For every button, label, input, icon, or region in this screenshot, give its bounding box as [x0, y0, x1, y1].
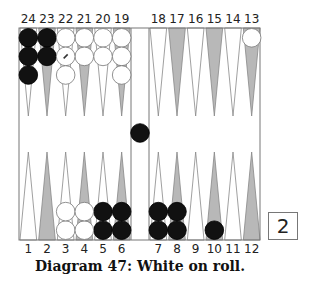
point-16 [187, 28, 204, 116]
white-checker [242, 29, 261, 48]
black-checker [94, 202, 113, 221]
bottom-point-labels: 123456789101112 [25, 242, 260, 256]
point-label-8: 8 [173, 242, 181, 256]
point-label-18: 18 [151, 12, 166, 26]
point-14 [225, 28, 242, 116]
black-checker [19, 29, 38, 48]
point-17 [169, 28, 186, 116]
point-2 [39, 152, 56, 240]
point-label-15: 15 [207, 12, 222, 26]
point-label-13: 13 [244, 12, 259, 26]
checkers [19, 29, 261, 240]
point-12 [243, 152, 260, 240]
point-label-6: 6 [118, 242, 126, 256]
top-point-labels: 242322212019181716151413 [21, 12, 260, 26]
point-label-7: 7 [155, 242, 163, 256]
point-label-3: 3 [62, 242, 70, 256]
point-9 [187, 152, 204, 240]
white-checker [56, 202, 75, 221]
black-checker [94, 221, 113, 240]
white-checker [56, 29, 75, 48]
white-checker [75, 202, 94, 221]
diagram-caption: Diagram 47: White on roll. [0, 258, 280, 274]
point-label-20: 20 [95, 12, 110, 26]
point-label-21: 21 [77, 12, 92, 26]
point-label-9: 9 [192, 242, 200, 256]
black-checker [168, 221, 187, 240]
black-checker [19, 66, 38, 85]
point-label-2: 2 [43, 242, 51, 256]
point-label-16: 16 [188, 12, 203, 26]
point-18 [150, 28, 167, 116]
point-label-23: 23 [39, 12, 54, 26]
black-checker [19, 47, 38, 66]
point-label-24: 24 [21, 12, 36, 26]
point-label-14: 14 [225, 12, 240, 26]
point-label-17: 17 [169, 12, 184, 26]
point-label-19: 19 [114, 12, 129, 26]
white-checker [112, 29, 131, 48]
black-checker [38, 29, 57, 48]
point-11 [225, 152, 242, 240]
white-checker [56, 66, 75, 85]
white-checker [75, 47, 94, 66]
point-label-5: 5 [99, 242, 107, 256]
black-checker [38, 47, 57, 66]
black-checker [112, 202, 131, 221]
white-checker [75, 29, 94, 48]
point-label-12: 12 [244, 242, 259, 256]
point-label-10: 10 [207, 242, 222, 256]
doubling-cube: 2 [268, 212, 298, 240]
black-checker [131, 124, 150, 143]
backgammon-board: 242322212019181716151413 123456789101112 [0, 0, 313, 287]
white-checker [75, 221, 94, 240]
white-checker [112, 47, 131, 66]
black-checker [149, 221, 168, 240]
white-checker [94, 47, 113, 66]
white-checker [94, 29, 113, 48]
black-checker [112, 221, 131, 240]
point-label-11: 11 [225, 242, 240, 256]
black-checker [168, 202, 187, 221]
black-checker [205, 221, 224, 240]
point-15 [206, 28, 223, 116]
white-checker [56, 221, 75, 240]
black-checker [149, 202, 168, 221]
point-1 [20, 152, 37, 240]
point-label-4: 4 [81, 242, 89, 256]
white-checker [112, 66, 131, 85]
point-label-22: 22 [58, 12, 73, 26]
point-label-1: 1 [25, 242, 33, 256]
